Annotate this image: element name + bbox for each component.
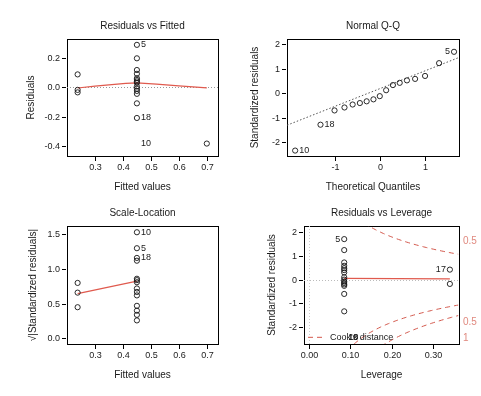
regression-diagnostics-figure — [0, 0, 481, 396]
